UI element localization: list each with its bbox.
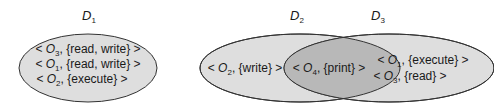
access-entry: < O2, {write} >: [208, 61, 283, 77]
domain-label-d1: D1: [82, 8, 96, 25]
access-entry: < O3, {read} >: [373, 69, 446, 85]
access-entry: < O1, {execute} >: [377, 53, 468, 69]
access-entry: < O1, {read, write} >: [35, 57, 140, 73]
access-entry: < O3, {read, write} >: [35, 42, 140, 58]
domain-label-d3: D3: [371, 8, 385, 25]
domain-diagram: D1 D2 D3 < O3, {read, write} > < O1, {re…: [0, 0, 494, 111]
domain-label-d2: D2: [290, 8, 304, 25]
shared-access-entry: < O4, {print} >: [293, 61, 366, 77]
access-entry: < O2, {execute} >: [36, 72, 127, 88]
